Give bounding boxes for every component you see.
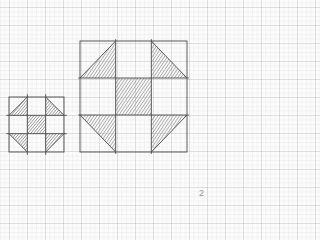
- center-square-shaded: [116, 78, 152, 115]
- large-quilt-block: [80, 41, 187, 152]
- page-number: 2: [199, 188, 204, 198]
- small-quilt-block: [9, 97, 64, 152]
- center-square-shaded: [27, 115, 45, 133]
